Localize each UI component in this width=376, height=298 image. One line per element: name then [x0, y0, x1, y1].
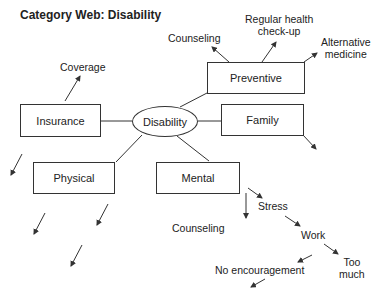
center-node-label: Disability [143, 116, 187, 128]
leaf-counseling-top: Counseling [168, 32, 221, 44]
node-family: Family [221, 104, 304, 136]
leaf-alternative-medicine: Alternative medicine [321, 36, 371, 60]
leaf-no-encouragement: No encouragement [215, 264, 304, 276]
category-web-diagram: Category Web: Disability Disability Insu… [0, 0, 376, 298]
center-node-disability: Disability [132, 106, 198, 137]
leaf-work: Work [301, 229, 325, 241]
node-insurance: Insurance [20, 104, 101, 137]
leaf-too-line1: Too [339, 256, 365, 268]
diagram-title: Category Web: Disability [20, 8, 161, 22]
leaf-regular-line2: check-up [245, 25, 313, 37]
leaf-regular-line1: Regular health [245, 13, 313, 25]
connector-lines [0, 0, 376, 298]
leaf-too-much: Too much [339, 256, 365, 280]
leaf-alt-line2: medicine [321, 48, 371, 60]
node-insurance-label: Insurance [36, 115, 84, 127]
leaf-too-line2: much [339, 268, 365, 280]
leaf-counseling-bottom: Counseling [172, 222, 225, 234]
node-mental-label: Mental [181, 172, 214, 184]
node-physical: Physical [33, 162, 115, 194]
leaf-coverage: Coverage [60, 61, 106, 73]
node-family-label: Family [246, 114, 278, 126]
node-physical-label: Physical [54, 172, 95, 184]
node-mental: Mental [156, 162, 240, 194]
leaf-stress: Stress [258, 200, 288, 212]
node-preventive: Preventive [207, 62, 305, 94]
leaf-regular-health-checkup: Regular health check-up [245, 13, 313, 37]
leaf-alt-line1: Alternative [321, 36, 371, 48]
node-preventive-label: Preventive [230, 72, 282, 84]
